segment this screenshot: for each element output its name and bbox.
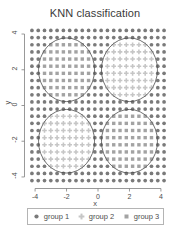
group-1-marker-icon [32, 212, 41, 221]
legend-item-label: group 1 [44, 212, 69, 221]
group-2-marker-icon [77, 212, 86, 221]
legend-item-label: group 2 [89, 212, 114, 221]
axis-lines [22, 34, 161, 191]
x-axis-label: x [0, 199, 190, 208]
knn-classification-figure: KNN classification -4-2024 -4-2024 y x g… [0, 0, 190, 233]
y-axis-tick-label: 4 [11, 27, 18, 39]
legend-item[interactable]: group 1 [32, 212, 69, 221]
y-axis-tick-label: -4 [11, 169, 18, 181]
y-axis-label: y [3, 101, 12, 105]
legend-item-label: group 3 [134, 212, 159, 221]
group-3-marker-icon [122, 212, 131, 221]
legend-item[interactable]: group 2 [77, 212, 114, 221]
legend-item[interactable]: group 3 [122, 212, 159, 221]
y-axis-tick-label: -2 [11, 134, 18, 146]
legend: group 1 group 2 group 3 [27, 208, 164, 225]
y-axis-tick-label: 2 [11, 62, 18, 74]
